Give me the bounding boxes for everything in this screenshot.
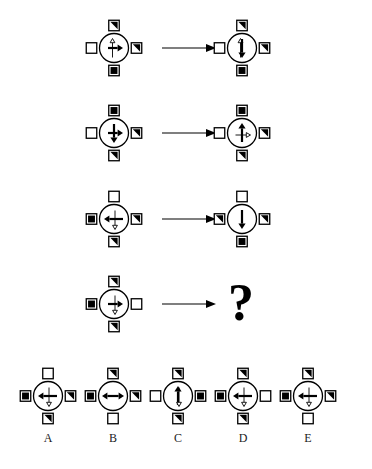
option-d: [211, 364, 275, 428]
puzzle-canvas: ?ABCDE: [0, 0, 372, 469]
row-3-left: [82, 187, 146, 251]
row-2-left: [82, 101, 146, 165]
row-4-left: [82, 272, 146, 336]
option-a: [16, 364, 80, 428]
option-b: [81, 364, 145, 428]
option-d-label: D: [228, 431, 258, 446]
option-b-label: B: [98, 431, 128, 446]
option-c-label: C: [163, 431, 193, 446]
row-1-right: [210, 16, 274, 80]
option-e-label: E: [293, 431, 323, 446]
row-3-right: [210, 187, 274, 251]
question-mark-placeholder: ?: [228, 277, 254, 329]
option-a-label: A: [33, 431, 63, 446]
row-4-transition-arrow-icon: [160, 294, 220, 314]
row-2-right: [210, 101, 274, 165]
option-e: [276, 364, 340, 428]
row-1-left: [82, 16, 146, 80]
option-c: [146, 364, 210, 428]
